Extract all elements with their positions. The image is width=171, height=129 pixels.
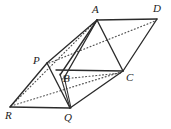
vertex-label-D: D	[153, 3, 161, 14]
vertex-label-P: P	[33, 55, 40, 66]
edge-C-Q	[70, 71, 123, 108]
edge-A-C	[97, 20, 123, 71]
vertex-label-B: B	[63, 73, 70, 84]
hidden-edge-P-D	[49, 21, 155, 63]
edge-P-C	[56, 70, 123, 71]
edge-R-Q	[10, 107, 70, 108]
vertex-label-R: R	[5, 110, 12, 121]
geometry-figure: A D P B C R Q	[0, 0, 171, 129]
edge-A-D	[97, 19, 157, 20]
geometry-canvas	[0, 0, 171, 129]
vertex-label-Q: Q	[64, 112, 72, 123]
edge-D-C	[123, 19, 157, 71]
edge-A-Bq	[64, 20, 97, 78]
vertex-label-A: A	[92, 4, 99, 15]
vertex-label-C: C	[126, 72, 133, 83]
